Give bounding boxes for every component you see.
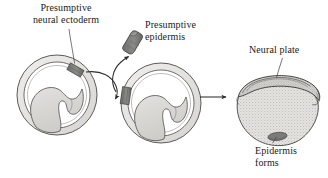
label-presumptive-epidermis: Presumptive epidermis (145, 19, 237, 42)
label-neural-plate: Neural plate (249, 44, 325, 56)
host-gastrula (120, 63, 201, 143)
graft-patch-host (120, 87, 131, 105)
label-presumptive-neural-ectoderm: Presumptive neural ectoderm (14, 2, 118, 25)
neurula-embryo (237, 76, 320, 146)
embryo-induction-figure: Presumptive neural ectoderm Presumptive … (0, 0, 328, 178)
label-epidermis-forms: Epidermis forms (255, 145, 321, 168)
donor-gastrula (17, 55, 97, 135)
leader-neural-plate (276, 58, 282, 78)
explanted-tissue-block (123, 31, 143, 54)
